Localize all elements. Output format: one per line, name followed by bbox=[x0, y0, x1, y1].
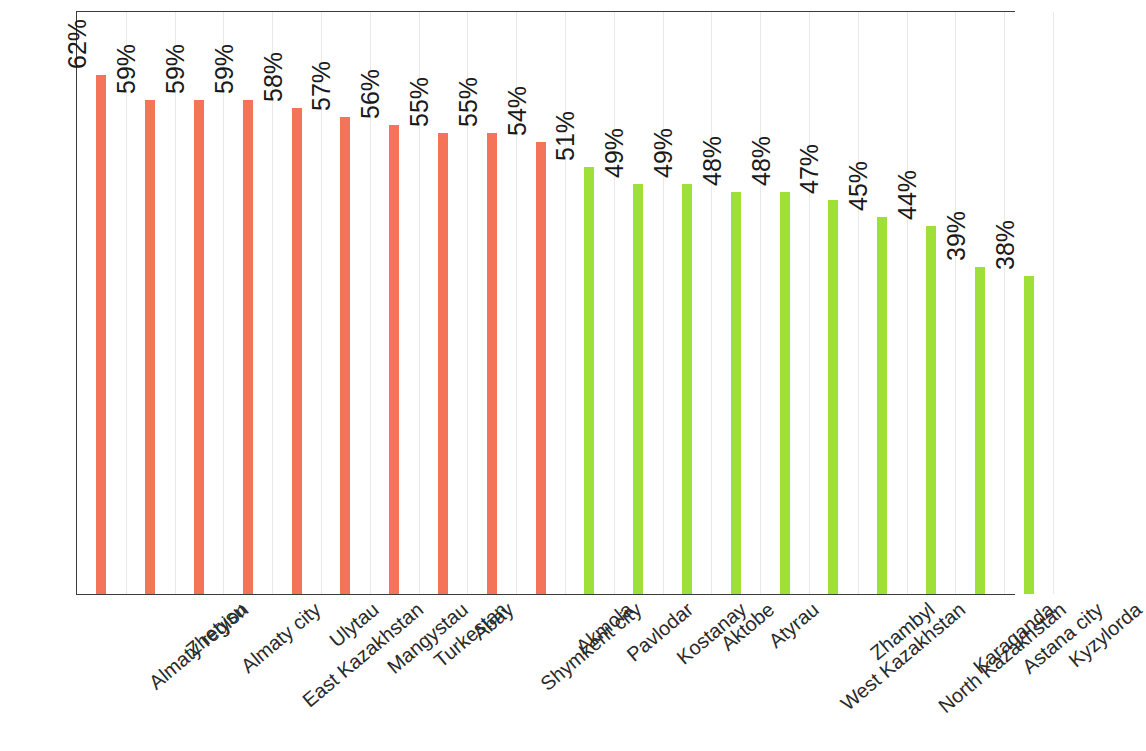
bar[interactable] bbox=[487, 133, 497, 594]
bar-group: 51% bbox=[565, 12, 614, 594]
bar-group: 47% bbox=[809, 12, 858, 594]
bar[interactable] bbox=[194, 100, 204, 594]
gridline bbox=[1053, 12, 1054, 594]
bar-value-label: 59% bbox=[112, 44, 141, 94]
bars-layer: 62%59%59%59%58%57%56%55%55%54%51%49%49%4… bbox=[77, 12, 1015, 594]
bar-value-label: 47% bbox=[795, 144, 824, 194]
bar-group: 62% bbox=[77, 12, 126, 594]
bar[interactable] bbox=[975, 267, 985, 594]
bar-value-label: 44% bbox=[893, 169, 922, 219]
bar[interactable] bbox=[96, 75, 106, 594]
bar-value-label: 62% bbox=[63, 19, 92, 69]
bar-group: 48% bbox=[711, 12, 760, 594]
bar-value-label: 58% bbox=[259, 52, 288, 102]
bar-group: 59% bbox=[126, 12, 175, 594]
bar-group: 38% bbox=[1004, 12, 1053, 594]
bar[interactable] bbox=[828, 200, 838, 594]
bar[interactable] bbox=[877, 217, 887, 594]
bar-value-label: 59% bbox=[210, 44, 239, 94]
bar-value-label: 48% bbox=[747, 136, 776, 186]
bar[interactable] bbox=[243, 100, 253, 594]
bar-value-label: 48% bbox=[698, 136, 727, 186]
bar-group: 59% bbox=[175, 12, 224, 594]
bar-group: 54% bbox=[516, 12, 565, 594]
bar-value-label: 49% bbox=[600, 128, 629, 178]
bar-value-label: 55% bbox=[454, 77, 483, 127]
bar-group: 49% bbox=[663, 12, 712, 594]
category-label: Almaty city bbox=[237, 598, 326, 678]
bar-group: 49% bbox=[614, 12, 663, 594]
bar[interactable] bbox=[340, 117, 350, 594]
bar[interactable] bbox=[682, 184, 692, 594]
bar[interactable] bbox=[584, 167, 594, 594]
bar[interactable] bbox=[1024, 276, 1034, 594]
bar-value-label: 39% bbox=[942, 211, 971, 261]
bar-group: 44% bbox=[907, 12, 956, 594]
bar-value-label: 56% bbox=[356, 69, 385, 119]
bar[interactable] bbox=[145, 100, 155, 594]
bar-group: 48% bbox=[760, 12, 809, 594]
bar[interactable] bbox=[926, 226, 936, 595]
bar[interactable] bbox=[389, 125, 399, 594]
bar-value-label: 45% bbox=[844, 161, 873, 211]
bar[interactable] bbox=[536, 142, 546, 594]
bar-value-label: 55% bbox=[405, 77, 434, 127]
bar-value-label: 51% bbox=[551, 111, 580, 161]
bar-value-label: 38% bbox=[991, 220, 1020, 270]
bar[interactable] bbox=[438, 133, 448, 594]
category-label: Atyrau bbox=[764, 598, 823, 653]
x-axis-category-labels: Almaty regionZhetysuAlmaty cityEast Kaza… bbox=[76, 598, 1015, 751]
bar[interactable] bbox=[292, 108, 302, 594]
bar-group: 45% bbox=[858, 12, 907, 594]
category-label: Zhetysu bbox=[182, 598, 251, 661]
bar-value-label: 49% bbox=[649, 128, 678, 178]
bar-group: 39% bbox=[955, 12, 1004, 594]
bar-value-label: 59% bbox=[161, 44, 190, 94]
bar[interactable] bbox=[731, 192, 741, 594]
bar[interactable] bbox=[780, 192, 790, 594]
bar[interactable] bbox=[633, 184, 643, 594]
bar-value-label: 54% bbox=[503, 86, 532, 136]
bar-value-label: 57% bbox=[307, 61, 336, 111]
plot-area: 62%59%59%59%58%57%56%55%55%54%51%49%49%4… bbox=[76, 11, 1015, 595]
